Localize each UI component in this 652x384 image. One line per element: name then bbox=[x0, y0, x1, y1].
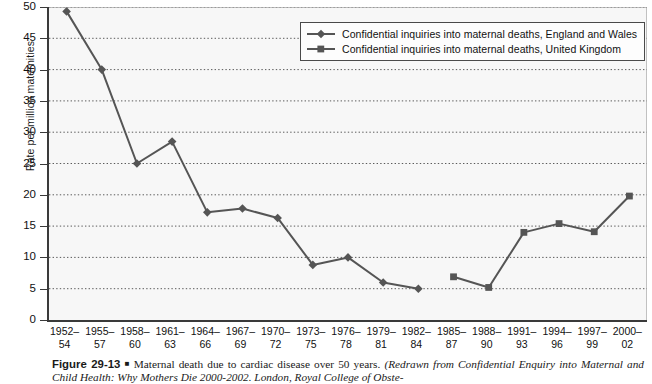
legend-label: Confidential inquiries into maternal dea… bbox=[342, 43, 621, 55]
y-tick-mark bbox=[40, 132, 47, 133]
figure-container: Rate per million maternities 05101520253… bbox=[0, 0, 652, 384]
x-axis-label-1: 1955–57 bbox=[82, 325, 117, 359]
caption-text-roman: Maternal death due to cardiac disease ov… bbox=[134, 358, 385, 370]
x-axis-label-9: 1979–81 bbox=[364, 325, 399, 359]
data-point-marker-square bbox=[485, 284, 492, 291]
y-tick-label: 25 bbox=[23, 157, 36, 169]
y-tick-label: 40 bbox=[23, 63, 36, 75]
x-axis-label-4: 1964–66 bbox=[188, 325, 223, 359]
y-tick-mark bbox=[40, 7, 47, 8]
y-tick-label: 5 bbox=[30, 282, 36, 294]
series-line-1 bbox=[454, 196, 630, 287]
bullet-square-icon: ■ bbox=[120, 359, 133, 368]
x-axis-label-0: 1952–54 bbox=[47, 325, 82, 359]
y-tick-mark bbox=[40, 38, 47, 39]
data-point-marker-diamond bbox=[238, 204, 247, 213]
caption-text-italic-1: (Redrawn from Confidential bbox=[384, 358, 514, 370]
x-axis-label-14: 1994–96 bbox=[539, 325, 574, 359]
data-point-marker-square bbox=[450, 273, 457, 280]
x-axis-label-16: 2000–02 bbox=[610, 325, 645, 359]
y-tick-mark bbox=[40, 289, 47, 290]
x-axis-label-6: 1970–72 bbox=[258, 325, 293, 359]
y-tick-mark bbox=[40, 226, 47, 227]
data-point-marker-diamond bbox=[62, 7, 71, 16]
y-tick-label: 35 bbox=[23, 94, 36, 106]
x-axis-label-11: 1985–87 bbox=[434, 325, 469, 359]
data-point-marker-diamond bbox=[97, 65, 106, 74]
chart-legend: Confidential inquiries into maternal dea… bbox=[300, 22, 645, 61]
y-tick-label: 45 bbox=[23, 31, 36, 43]
y-tick-label: 50 bbox=[23, 0, 36, 12]
y-tick-label: 20 bbox=[23, 188, 36, 200]
figure-caption: Figure 29-13■Maternal death due to cardi… bbox=[52, 357, 644, 384]
y-tick-mark bbox=[40, 101, 47, 102]
legend-label: Confidential inquiries into maternal dea… bbox=[342, 28, 637, 40]
x-axis-label-10: 1982–84 bbox=[399, 325, 434, 359]
x-axis-label-8: 1976–78 bbox=[328, 325, 363, 359]
y-tick-mark bbox=[40, 164, 47, 165]
x-axis-labels: 1952–541955–571958–601961–631964–661967–… bbox=[47, 325, 645, 359]
x-axis-label-13: 1991–93 bbox=[504, 325, 539, 359]
data-point-marker-diamond bbox=[414, 284, 423, 293]
y-tick-mark bbox=[40, 257, 47, 258]
y-tick-label: 10 bbox=[23, 250, 36, 262]
x-axis-label-5: 1967–69 bbox=[223, 325, 258, 359]
data-point-marker-square bbox=[520, 229, 527, 236]
x-axis-label-3: 1961–63 bbox=[153, 325, 188, 359]
data-point-marker-square bbox=[626, 193, 633, 200]
x-axis-label-7: 1973–75 bbox=[293, 325, 328, 359]
y-tick-mark bbox=[40, 320, 47, 321]
legend-item-1: Confidential inquiries into maternal dea… bbox=[306, 41, 637, 56]
x-axis-label-2: 1958–60 bbox=[117, 325, 152, 359]
y-tick-label: 0 bbox=[30, 313, 36, 325]
data-point-marker-square bbox=[556, 220, 563, 227]
x-axis-label-12: 1988–90 bbox=[469, 325, 504, 359]
figure-number: Figure 29-13 bbox=[52, 358, 120, 370]
y-tick-mark bbox=[40, 70, 47, 71]
y-tick-label: 15 bbox=[23, 219, 36, 231]
y-tick-mark bbox=[40, 195, 47, 196]
data-point-marker-square bbox=[591, 228, 598, 235]
data-point-marker-diamond bbox=[203, 208, 212, 217]
legend-marker-square-icon bbox=[306, 43, 336, 55]
y-tick-label: 30 bbox=[23, 125, 36, 137]
x-axis-label-15: 1997–99 bbox=[575, 325, 610, 359]
legend-marker-diamond-icon bbox=[306, 28, 336, 40]
legend-item-0: Confidential inquiries into maternal dea… bbox=[306, 26, 637, 41]
